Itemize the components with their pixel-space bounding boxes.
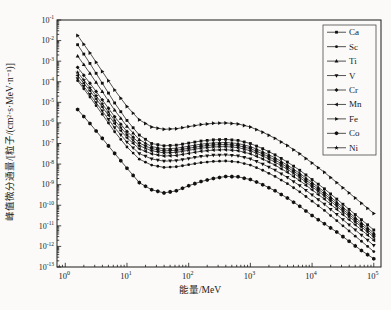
square-marker (274, 153, 277, 156)
triangle-left-marker (168, 154, 172, 158)
triangle-right-marker (89, 51, 93, 55)
circle-marker (181, 164, 184, 167)
triangle-left-marker (230, 148, 234, 152)
circle-marker (163, 166, 166, 169)
square-marker (113, 102, 116, 105)
tick-label: 104 (305, 270, 317, 281)
triangle-left-marker (211, 148, 215, 152)
hexagon-marker (329, 226, 333, 230)
circle-marker (107, 122, 110, 125)
hexagon-marker (341, 235, 345, 239)
square-marker (144, 138, 147, 141)
hexagon-marker (347, 239, 351, 243)
square-marker (200, 140, 203, 143)
square-marker (218, 138, 221, 141)
circle-marker (305, 195, 308, 198)
square-marker (76, 43, 79, 46)
circle-marker (267, 172, 270, 175)
circle-marker (255, 166, 258, 169)
hexagon-marker (372, 257, 376, 261)
hexagon-marker (279, 192, 283, 196)
square-marker (101, 82, 104, 85)
square-marker (89, 62, 92, 65)
square-marker (335, 31, 338, 34)
hexagon-marker (230, 175, 234, 179)
circle-marker (274, 175, 277, 178)
square-marker (126, 119, 129, 122)
triangle-right-marker (224, 121, 228, 125)
triangle-right-marker (261, 130, 265, 134)
triangle-down-marker (372, 244, 376, 248)
triangle-left-marker (193, 150, 197, 154)
square-marker (372, 229, 375, 232)
square-marker (255, 145, 258, 148)
circle-marker (156, 165, 159, 168)
triangle-left-marker (143, 149, 147, 153)
tick-label: 103 (244, 270, 256, 281)
triangle-left-marker (187, 151, 191, 155)
triangle-down-marker (279, 172, 283, 176)
hexagon-marker (292, 200, 296, 204)
x-axis-label: 能量/MeV (179, 282, 221, 296)
circle-marker (200, 161, 203, 164)
hexagon-marker (150, 188, 154, 192)
hexagon-marker (249, 177, 253, 181)
triangle-down-marker (285, 176, 289, 180)
circle-marker (218, 160, 221, 163)
triangle-right-marker (95, 60, 99, 64)
square-marker (292, 165, 295, 168)
y-axis-tick-labels: 10-110-210-310-410-510-610-710-810-910-1… (39, 14, 55, 271)
circle-marker (212, 160, 215, 163)
hexagon-marker (199, 180, 203, 184)
triangle-right-marker (181, 126, 185, 130)
triangle-right-marker (280, 140, 284, 144)
circle-marker (206, 161, 209, 164)
hexagon-marker (236, 175, 240, 179)
legend-label: Ca (349, 27, 359, 37)
legend-label: V (349, 71, 356, 81)
triangle-left-marker (236, 149, 240, 153)
tick-label: 10-11 (39, 220, 54, 230)
triangle-down-marker (273, 169, 277, 173)
square-marker (163, 144, 166, 147)
tick-label: 10-12 (39, 241, 55, 251)
circle-marker (366, 245, 369, 248)
circle-marker (138, 158, 141, 161)
hexagon-marker (144, 184, 148, 188)
circle-marker (354, 235, 357, 238)
square-marker (175, 144, 178, 147)
tick-label: 10-4 (41, 76, 54, 86)
circle-marker (280, 179, 283, 182)
triangle-right-marker (156, 126, 160, 130)
circle-marker (113, 130, 116, 133)
circle-marker (243, 162, 246, 165)
legend-label: Co (349, 128, 360, 138)
circle-marker (335, 219, 338, 222)
square-marker (169, 144, 172, 147)
square-marker (366, 223, 369, 226)
triangle-right-marker (76, 33, 80, 37)
triangle-down-marker (292, 180, 296, 184)
square-marker (95, 72, 98, 75)
square-marker (237, 139, 240, 142)
square-marker (224, 138, 227, 141)
square-marker (348, 208, 351, 211)
hexagon-marker (316, 218, 320, 222)
triangle-right-marker (200, 123, 204, 127)
circle-marker (286, 182, 289, 185)
square-marker (150, 142, 153, 145)
square-marker (335, 198, 338, 201)
circle-marker (323, 209, 326, 212)
circle-marker (150, 164, 153, 167)
hexagon-marker (255, 180, 259, 184)
hexagon-marker (335, 230, 339, 234)
star-marker (75, 70, 80, 75)
square-marker (286, 161, 289, 164)
x-axis-ticks (59, 263, 373, 267)
hexagon-marker (360, 249, 364, 253)
triangle-left-marker (248, 152, 252, 156)
triangle-down-marker (304, 189, 308, 193)
tick-label: 10-13 (39, 261, 55, 271)
triangle-right-marker (175, 127, 179, 131)
square-marker (230, 138, 233, 141)
